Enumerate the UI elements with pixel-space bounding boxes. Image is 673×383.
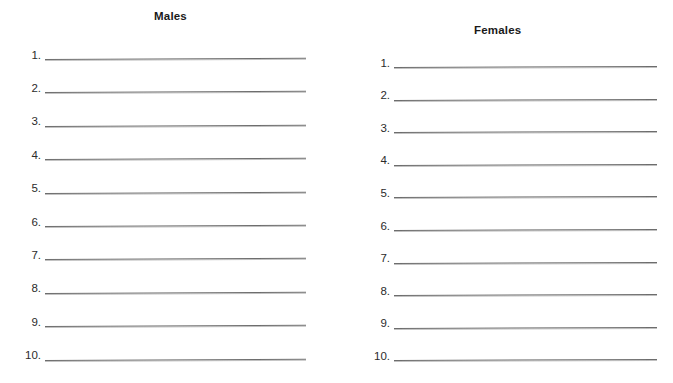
entry-write-in-rule[interactable] [45,358,306,360]
entry-write-in-rule[interactable] [45,191,306,193]
entry-number: 6. [369,221,390,234]
entry-number: 1. [20,50,41,63]
entry-write-in-rule[interactable] [45,124,306,126]
entry-row[interactable]: 9. [20,311,306,329]
entry-write-in-rule[interactable] [45,325,306,327]
entry-row[interactable]: 7. [20,244,306,262]
entry-number: 9. [20,317,41,330]
entry-write-in-rule[interactable] [394,131,657,133]
entry-write-in-rule[interactable] [394,359,657,361]
entry-row[interactable]: 7. [369,248,657,266]
entry-number: 3. [369,123,390,136]
entry-row[interactable]: 10. [20,345,306,363]
entry-write-in-rule[interactable] [45,91,306,93]
entry-row[interactable]: 2. [369,85,657,103]
entry-write-in-rule[interactable] [45,158,306,160]
entry-write-in-rule[interactable] [394,164,657,166]
entry-row[interactable]: 8. [369,280,657,298]
entry-write-in-rule[interactable] [45,258,306,260]
entry-number: 4. [369,155,390,168]
column-heading-females: Females [474,24,521,36]
entry-row[interactable]: 1. [20,44,306,62]
entry-number: 2. [369,90,390,103]
entry-row[interactable]: 6. [369,215,657,233]
entry-number: 8. [20,283,41,296]
entry-number: 10. [20,350,41,363]
entry-write-in-rule[interactable] [394,229,657,231]
entry-row[interactable]: 5. [20,178,306,196]
entry-number: 9. [369,318,390,331]
entry-write-in-rule[interactable] [45,58,306,60]
entry-write-in-rule[interactable] [394,327,657,329]
entry-number: 7. [369,253,390,266]
entry-write-in-rule[interactable] [45,291,306,293]
entry-number: 7. [20,250,41,263]
entry-row[interactable]: 10. [369,345,657,363]
entry-number: 3. [20,116,41,129]
entry-number: 10. [369,351,390,364]
entry-number: 5. [20,183,41,196]
entry-row[interactable]: 3. [20,111,306,129]
entry-number: 1. [369,58,390,71]
entry-number: 5. [369,188,390,201]
entry-write-in-rule[interactable] [394,294,657,296]
column-heading-males: Males [154,10,187,22]
entry-row[interactable]: 4. [369,150,657,168]
entry-write-in-rule[interactable] [394,99,657,101]
entry-write-in-rule[interactable] [45,225,306,227]
entry-row[interactable]: 8. [20,278,306,296]
entry-row[interactable]: 1. [369,52,657,70]
entry-row[interactable]: 4. [20,144,306,162]
entry-row[interactable]: 3. [369,117,657,135]
entry-number: 6. [20,217,41,230]
entry-number: 2. [20,83,41,96]
entry-write-in-rule[interactable] [394,196,657,198]
entry-write-in-rule[interactable] [394,262,657,264]
entry-row[interactable]: 2. [20,77,306,95]
worksheet-page: Males 1.2.3.4.5.6.7.8.9.10. Females 1.2.… [0,0,673,383]
entry-row[interactable]: 5. [369,182,657,200]
entry-row[interactable]: 6. [20,211,306,229]
entry-write-in-rule[interactable] [394,66,657,68]
entry-number: 8. [369,286,390,299]
entry-row[interactable]: 9. [369,313,657,331]
entry-number: 4. [20,150,41,163]
